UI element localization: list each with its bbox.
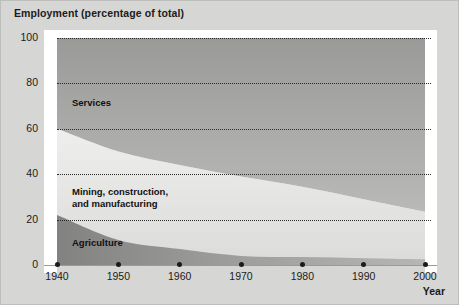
x-tick-marker [55, 262, 60, 267]
x-tick-marker [239, 262, 244, 267]
y-gridline [57, 220, 431, 221]
series-label-services: Services [72, 97, 111, 109]
x-tick-marker [177, 262, 182, 267]
x-tick-label: 1960 [168, 270, 191, 282]
plot-top-margin [44, 30, 437, 38]
x-tick-label: 1970 [229, 270, 252, 282]
chart-title: Employment (percentage of total) [14, 7, 184, 19]
x-tick-label: 1990 [352, 270, 375, 282]
y-gridline [57, 83, 431, 84]
y-tick-label: 60 [4, 122, 38, 134]
x-tick-marker [116, 262, 121, 267]
stacked-area-svg [57, 38, 425, 265]
y-tick-label: 100 [4, 31, 38, 43]
x-tick-marker [361, 262, 366, 267]
y-gridline [57, 129, 431, 130]
x-tick-label: 1980 [291, 270, 314, 282]
x-tick-marker [423, 262, 428, 267]
plot-area [57, 38, 425, 265]
x-tick-label: 2000 [413, 270, 436, 282]
y-tick-label: 40 [4, 167, 38, 179]
series-label-agriculture: Agriculture [72, 237, 123, 249]
series-label-manufacturing: Mining, construction, and manufacturing [72, 186, 168, 210]
plot-right-margin [425, 30, 437, 273]
x-axis-title: Year [423, 285, 445, 297]
x-tick-label: 1940 [45, 270, 68, 282]
y-tick-label: 20 [4, 213, 38, 225]
plot-left-margin [44, 30, 57, 273]
y-gridline [57, 38, 431, 39]
y-tick-label: 80 [4, 76, 38, 88]
y-tick-label: 0 [4, 258, 38, 270]
x-tick-label: 1950 [107, 270, 130, 282]
y-gridline [57, 174, 431, 175]
chart-figure: Employment (percentage of total) [0, 0, 459, 305]
x-tick-marker [300, 262, 305, 267]
